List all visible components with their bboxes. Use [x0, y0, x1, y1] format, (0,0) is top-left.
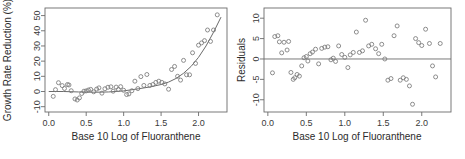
right-y-axis-title: Residuals [236, 38, 247, 82]
x-tick-label: 2.0 [415, 118, 428, 128]
data-point [209, 39, 213, 43]
y-tick-label: 0 [32, 89, 42, 94]
data-point [287, 39, 291, 43]
left-x-axis-title: Base 10 Log of Fluoranthene [72, 131, 201, 142]
plot-frame [264, 8, 451, 112]
data-point [411, 102, 415, 106]
data-point [277, 40, 281, 44]
fit-curve-line [49, 17, 221, 92]
data-point [434, 75, 438, 79]
data-point [51, 94, 55, 98]
data-point [289, 70, 293, 74]
data-point [133, 79, 137, 83]
y-tick-label: 30 [32, 41, 42, 51]
y-tick-label: -10 [251, 93, 261, 106]
data-point [203, 39, 207, 43]
y-tick-label: 10 [32, 71, 42, 81]
data-point [62, 86, 66, 90]
data-point [206, 28, 210, 32]
data-point [395, 24, 399, 28]
data-point [380, 42, 384, 46]
data-point [334, 59, 338, 63]
data-point [114, 85, 118, 89]
left-y-axis-title: Growth Rate Reduction (%) [2, 0, 13, 121]
data-point [431, 64, 435, 68]
figure-container: 0.00.51.01.52.0-1001020304050 Base 10 Lo… [0, 0, 465, 159]
left-plot-svg: 0.00.51.01.52.0-1001020304050 Base 10 Lo… [0, 0, 233, 159]
y-tick-label: -5 [251, 75, 261, 83]
data-point [145, 73, 149, 77]
x-tick-label: 1.5 [377, 118, 390, 128]
data-point [119, 85, 123, 89]
data-point [306, 59, 310, 63]
data-point [139, 75, 143, 79]
data-point [215, 13, 219, 17]
x-tick-label: 1.0 [339, 118, 352, 128]
y-tick-label: 20 [32, 56, 42, 66]
y-tick-label: -10 [32, 100, 42, 113]
data-point [438, 41, 442, 45]
y-tick-label: 5 [251, 36, 261, 41]
data-point [346, 66, 350, 70]
data-point [407, 84, 411, 88]
data-point [337, 44, 341, 48]
data-point [374, 47, 378, 51]
data-point [351, 50, 355, 54]
y-tick-label: 40 [32, 26, 42, 36]
data-point [317, 62, 321, 66]
y-tick-label: 50 [32, 11, 42, 21]
data-point [282, 40, 286, 44]
y-tick-label: 0 [251, 56, 261, 61]
data-point [364, 18, 368, 22]
left-panel-growth-rate-plot: 0.00.51.01.52.0-1001020304050 Base 10 Lo… [0, 0, 233, 159]
x-tick-label: 1.0 [117, 118, 130, 128]
data-point [270, 71, 274, 75]
data-point [300, 64, 304, 68]
data-point [392, 34, 396, 38]
data-point [191, 51, 195, 55]
x-tick-label: 0.5 [300, 118, 313, 128]
data-point [285, 48, 289, 52]
data-point [414, 37, 418, 41]
x-tick-label: 0.5 [80, 118, 93, 128]
plot-frame [45, 8, 227, 112]
data-point [420, 44, 424, 48]
x-tick-label: 0.0 [262, 118, 275, 128]
right-plot-svg: 0.00.51.01.52.0-10-50510 Base 10 Log of … [233, 0, 465, 159]
data-point [354, 30, 358, 34]
data-point [142, 83, 146, 87]
x-tick-label: 1.5 [155, 118, 168, 128]
data-point [182, 58, 186, 62]
data-point [179, 78, 183, 82]
right-panel-residuals-plot: 0.00.51.01.52.0-10-50510 Base 10 Log of … [233, 0, 465, 159]
data-point [56, 81, 60, 85]
data-point [167, 87, 171, 91]
x-tick-label: 2.0 [192, 118, 205, 128]
right-x-axis-title: Base 10 Log of Fluoranthene [293, 131, 422, 142]
data-point [173, 64, 177, 68]
y-tick-label: 10 [251, 13, 261, 23]
data-point [314, 47, 318, 51]
data-point [377, 52, 381, 56]
data-point [280, 51, 284, 55]
x-tick-label: 0.0 [42, 118, 55, 128]
data-point [424, 27, 428, 31]
data-point [427, 41, 431, 45]
